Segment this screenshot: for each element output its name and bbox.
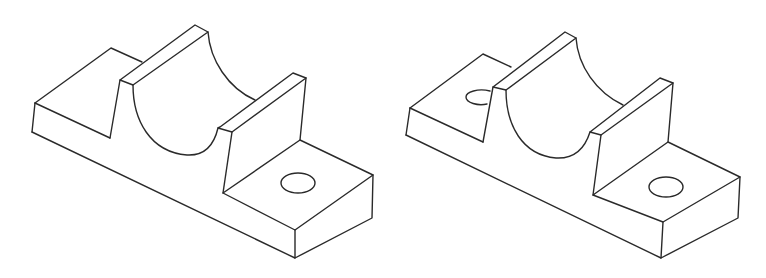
rear-rib-front-edge xyxy=(223,132,232,193)
right-pad-top xyxy=(223,140,373,230)
hole-left-block-partial xyxy=(466,90,490,105)
rear-rib-back-edge xyxy=(668,83,673,142)
base-bottom-edge xyxy=(406,135,661,258)
left-block-front-edge xyxy=(35,103,110,138)
cradle-arc-front xyxy=(133,85,218,155)
front-rib xyxy=(120,25,208,85)
front-rib xyxy=(493,32,576,90)
left-block-inner-edge xyxy=(483,87,493,142)
rear-rib-top xyxy=(590,78,673,135)
rear-rib-top xyxy=(218,73,306,132)
left-block-inner-edge xyxy=(110,80,120,138)
base-bottom-edge xyxy=(32,132,295,258)
cradle-arc-back xyxy=(208,32,255,100)
hole-right-pad xyxy=(281,173,315,193)
right-pad-sides xyxy=(661,177,740,258)
cradle-arc-front xyxy=(506,90,590,158)
figure-canvas: Bracket variant A Bracket variant B xyxy=(0,0,766,278)
bracket-part-b xyxy=(406,32,740,258)
isometric-drawings xyxy=(0,0,766,278)
left-block-left-edge xyxy=(32,103,35,132)
cradle-arc-back xyxy=(576,38,623,105)
rear-rib-front-edge xyxy=(593,135,601,195)
left-block-top xyxy=(410,54,511,108)
bracket-part-a xyxy=(32,25,373,258)
right-pad-sides xyxy=(295,175,373,258)
left-block-front-edge xyxy=(410,108,483,142)
rear-rib-back-edge xyxy=(300,78,306,140)
hole-right-pad xyxy=(649,177,683,197)
left-block-left-edge xyxy=(406,108,410,135)
right-pad-top xyxy=(593,142,740,222)
